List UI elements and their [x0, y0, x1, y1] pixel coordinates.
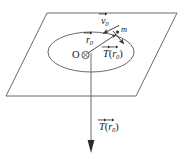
tension-symbol: T — [103, 48, 109, 59]
velocity-vector-label: v0 — [101, 16, 109, 27]
down-force-arrowhead-icon — [88, 140, 95, 153]
velocity-symbol: v — [101, 15, 106, 26]
position-subscript: 0 — [90, 39, 93, 46]
tension-bottom-arg-glyph: r — [108, 122, 112, 133]
position-symbol: r — [86, 34, 90, 45]
tension-arg-symbol: r — [112, 48, 116, 59]
paren-close: ) — [119, 48, 123, 59]
mass-label: m — [121, 25, 127, 34]
mass-point-icon — [116, 31, 119, 34]
origin-label: O — [72, 50, 80, 61]
tension-bottom-label: T(r0) — [99, 122, 119, 133]
diagram-canvas — [0, 0, 187, 159]
velocity-vector-glyph: v — [101, 16, 106, 27]
tension-plane-label: T(r0) — [103, 49, 123, 60]
position-vector-glyph: r — [86, 35, 90, 46]
physics-diagram-figure: v0 m r0 O T(r0) T(r0) — [0, 0, 187, 159]
paren-close: ) — [115, 121, 119, 132]
tension-symbol-glyph: T — [103, 49, 109, 60]
tension-bottom-symbol: T — [99, 121, 105, 132]
tension-bottom-arg-symbol: r — [108, 121, 112, 132]
tension-arg-glyph: r — [112, 49, 116, 60]
tension-bottom-symbol-glyph: T — [99, 122, 105, 133]
position-vector-label: r0 — [86, 35, 93, 46]
